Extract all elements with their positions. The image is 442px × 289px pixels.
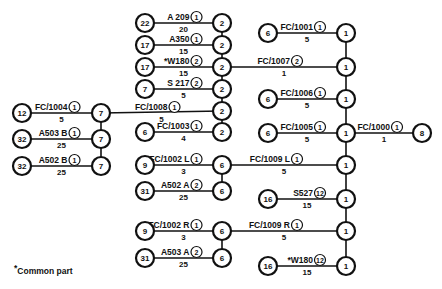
part-label: A502 B bbox=[39, 155, 68, 165]
svg-text:1: 1 bbox=[344, 227, 349, 236]
length-label: 15 bbox=[179, 47, 188, 56]
link: FC/100011 bbox=[346, 122, 422, 145]
svg-text:22: 22 bbox=[141, 19, 150, 28]
length-label: 20 bbox=[179, 25, 188, 34]
svg-text:9: 9 bbox=[143, 227, 148, 236]
length-label: 3 bbox=[181, 233, 186, 242]
part-label: FC/1000 bbox=[357, 122, 390, 132]
node-s9a: 9 bbox=[136, 156, 154, 174]
svg-text:1: 1 bbox=[195, 36, 199, 43]
node-r16a: 16 bbox=[259, 190, 277, 208]
svg-text:12: 12 bbox=[316, 257, 324, 264]
node-s17a: 17 bbox=[136, 36, 154, 54]
svg-text:6: 6 bbox=[220, 227, 225, 236]
node-n32a: 32 bbox=[13, 130, 31, 148]
part-label: FC/1003 bbox=[157, 121, 190, 131]
quantity-badge: 1 bbox=[191, 154, 202, 165]
link: S 21725 bbox=[145, 78, 222, 101]
quantity-badge: 1 bbox=[191, 34, 202, 45]
part-label: FC/1005 bbox=[280, 122, 313, 132]
svg-text:7: 7 bbox=[143, 85, 148, 94]
length-label: 5 bbox=[282, 167, 287, 176]
length-label: 15 bbox=[303, 268, 312, 277]
quantity-badge: 1 bbox=[315, 122, 326, 133]
svg-text:2: 2 bbox=[295, 58, 299, 65]
node-r6b: 6 bbox=[259, 90, 277, 108]
svg-text:7: 7 bbox=[99, 109, 104, 118]
link: FC/1009 L15 bbox=[222, 154, 346, 177]
svg-text:6: 6 bbox=[220, 187, 225, 196]
node-c1b: 1 bbox=[337, 58, 355, 76]
length-label: 1 bbox=[282, 69, 287, 78]
svg-text:9: 9 bbox=[143, 161, 148, 170]
node-L7b: 7 bbox=[92, 130, 110, 148]
link: *W1801215 bbox=[268, 255, 346, 278]
node-c1d: 1 bbox=[337, 124, 355, 142]
node-L7a: 7 bbox=[92, 104, 110, 122]
link: FC/100615 bbox=[268, 88, 346, 111]
svg-text:12: 12 bbox=[18, 109, 27, 118]
svg-text:2: 2 bbox=[220, 107, 225, 116]
node-s6: 6 bbox=[136, 123, 154, 141]
node-c6c: 6 bbox=[213, 222, 231, 240]
link: A 209120 bbox=[145, 12, 222, 35]
quantity-badge: 12 bbox=[315, 255, 326, 266]
length-label: 4 bbox=[181, 134, 186, 143]
svg-text:1: 1 bbox=[344, 95, 349, 104]
node-r6c: 6 bbox=[259, 124, 277, 142]
part-label: S527 bbox=[293, 188, 313, 198]
quantity-badge: 2 bbox=[191, 247, 202, 258]
legend-common-part: *Common part bbox=[14, 266, 73, 276]
svg-text:1: 1 bbox=[344, 29, 349, 38]
node-c1h: 1 bbox=[337, 257, 355, 275]
link: A502 A225 bbox=[145, 180, 222, 203]
quantity-badge: 1 bbox=[69, 128, 80, 139]
svg-text:1: 1 bbox=[344, 63, 349, 72]
node-c6b: 6 bbox=[213, 182, 231, 200]
quantity-badge: 1 bbox=[191, 12, 202, 23]
svg-text:1: 1 bbox=[344, 129, 349, 138]
svg-text:1: 1 bbox=[395, 124, 399, 131]
node-c1a: 1 bbox=[337, 24, 355, 42]
link: FC/1002 L13 bbox=[145, 154, 222, 177]
node-r6a: 6 bbox=[259, 24, 277, 42]
svg-text:6: 6 bbox=[220, 254, 225, 263]
length-label: 5 bbox=[282, 233, 287, 242]
svg-text:32: 32 bbox=[18, 135, 27, 144]
part-label: A350 bbox=[169, 34, 190, 44]
quantity-badge: 1 bbox=[69, 155, 80, 166]
node-c2c: 2 bbox=[213, 58, 231, 76]
quantity-badge: 1 bbox=[191, 121, 202, 132]
svg-text:2: 2 bbox=[220, 19, 225, 28]
svg-text:2: 2 bbox=[195, 182, 199, 189]
quantity-badge: 1 bbox=[69, 102, 80, 113]
svg-text:1: 1 bbox=[318, 124, 322, 131]
svg-text:2: 2 bbox=[220, 128, 225, 137]
quantity-badge: 2 bbox=[191, 78, 202, 89]
node-s31a: 31 bbox=[136, 182, 154, 200]
svg-text:17: 17 bbox=[141, 41, 150, 50]
svg-text:1: 1 bbox=[318, 24, 322, 31]
node-c2a: 2 bbox=[213, 14, 231, 32]
length-label: 5 bbox=[305, 35, 310, 44]
node-s7: 7 bbox=[136, 80, 154, 98]
part-label: FC/1007 bbox=[257, 56, 290, 66]
length-label: 25 bbox=[179, 260, 188, 269]
link: FC/100515 bbox=[268, 122, 346, 145]
part-label: A503 B bbox=[39, 128, 68, 138]
node-c1f: 1 bbox=[337, 190, 355, 208]
length-label: 5 bbox=[305, 135, 310, 144]
link: A503 B125 bbox=[22, 128, 101, 151]
asterisk-icon: * bbox=[14, 263, 17, 273]
svg-text:2: 2 bbox=[195, 80, 199, 87]
link: FC/100721 bbox=[222, 56, 346, 79]
svg-text:6: 6 bbox=[266, 95, 271, 104]
svg-text:7: 7 bbox=[99, 135, 104, 144]
svg-text:2: 2 bbox=[220, 85, 225, 94]
quantity-badge: 1 bbox=[191, 220, 202, 231]
part-label: S 217 bbox=[167, 78, 189, 88]
length-label: 5 bbox=[305, 101, 310, 110]
quantity-badge: 2 bbox=[191, 180, 202, 191]
svg-text:6: 6 bbox=[266, 29, 271, 38]
svg-text:6: 6 bbox=[266, 129, 271, 138]
